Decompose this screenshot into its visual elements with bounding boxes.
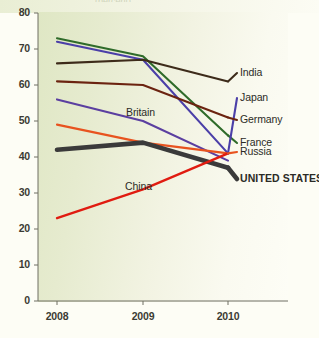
chart-figure: (percent) 80706050403020100 200820092010… [0, 0, 319, 338]
series-line-japan [57, 42, 228, 154]
legend-label-germany: Germany [240, 113, 282, 125]
legend-connector-india [228, 73, 237, 81]
legend-connector-germany [228, 117, 237, 120]
y-axis-tick-label: 80 [2, 6, 30, 18]
y-axis-tick-label: 20 [2, 222, 30, 234]
y-axis-tick-label: 60 [2, 78, 30, 90]
y-axis-tick-label: 0 [2, 294, 30, 306]
y-axis-tick-label: 10 [2, 258, 30, 270]
legend-connector-russia [228, 152, 237, 153]
y-axis-tick-label: 50 [2, 114, 30, 126]
y-axis-tick-label: 70 [2, 42, 30, 54]
y-axis-tick-label: 30 [2, 186, 30, 198]
line-chart-svg [0, 0, 319, 338]
legend-connector-united-states [228, 168, 237, 179]
series-line-india [57, 60, 228, 82]
legend-label-japan: Japan [240, 91, 268, 103]
china-inline-label: China [125, 180, 152, 192]
x-axis-tick-label: 2008 [35, 310, 79, 322]
legend-swatch-layer [228, 73, 237, 179]
legend-label-united-states: UNITED STATES [240, 172, 319, 184]
y-axis-tick-label: 40 [2, 150, 30, 162]
britain-inline-label: Britain [126, 106, 155, 118]
legend-connector-japan [228, 98, 237, 153]
x-axis-tick-label: 2009 [121, 310, 165, 322]
legend-label-russia: Russia [240, 145, 272, 157]
axes-layer [34, 13, 288, 305]
x-axis-tick-label: 2010 [206, 310, 250, 322]
legend-label-india: India [240, 66, 262, 78]
